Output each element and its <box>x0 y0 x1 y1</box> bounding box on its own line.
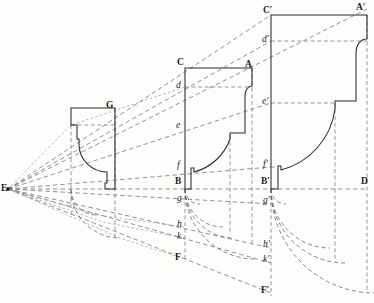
label-C: C <box>177 58 184 68</box>
ray-to-F-prime <box>8 189 271 293</box>
arc-large-k-prime <box>271 189 345 263</box>
label-g-prime: g′ <box>263 196 270 206</box>
label-B-prime: B′ <box>261 177 270 187</box>
label-C-prime: C′ <box>263 6 273 16</box>
connector-medium-to-small-k <box>8 189 185 238</box>
label-k: k <box>177 232 181 242</box>
arc-large-F-prime <box>271 189 374 293</box>
label-f: f <box>177 161 180 171</box>
projection-ray-group <box>8 9 367 293</box>
label-d-prime: d′ <box>262 35 269 45</box>
small-profile-outline <box>71 108 115 189</box>
small-moulding-profile <box>71 108 115 189</box>
arc-medium-g <box>185 189 200 204</box>
label-e: e <box>176 121 180 131</box>
label-A-prime: A′ <box>356 3 366 13</box>
ray-to-g-prime <box>8 189 271 204</box>
figure-drawing-canvas <box>0 0 374 303</box>
label-d: d <box>176 81 181 91</box>
label-e-prime: e′ <box>262 97 268 107</box>
label-D: D <box>361 177 368 187</box>
label-f-prime: f′ <box>263 160 268 170</box>
ray-to-h-prime <box>8 189 271 248</box>
ray-to-d-prime <box>8 41 271 189</box>
connector-medium-to-small-h <box>8 189 185 227</box>
arc-large-g-prime <box>271 189 286 204</box>
label-k-prime: k′ <box>263 255 269 265</box>
ray-to-e-prime <box>8 103 271 189</box>
rectification-arc-group <box>71 189 374 293</box>
ray-to-A-prime <box>8 9 367 189</box>
ray-to-k-prime <box>8 189 271 263</box>
label-h-prime: h′ <box>263 240 270 250</box>
ray-to-f-prime <box>8 167 271 189</box>
ray-to-C-prime <box>8 15 271 189</box>
arc-medium-h <box>185 189 223 227</box>
fan-connector-group <box>8 87 185 259</box>
technical-figure: E G C A d e f B g h k F C′ A′ d′ e′ f′ B… <box>0 0 374 303</box>
label-F-prime: F′ <box>261 286 269 296</box>
label-A: A <box>245 60 252 70</box>
medium-profile-outline <box>185 68 252 189</box>
arc-large-h-prime <box>271 189 330 248</box>
label-g: g <box>177 194 182 204</box>
medium-moulding-profile <box>185 68 252 189</box>
label-h: h <box>177 220 182 230</box>
label-G: G <box>106 101 113 111</box>
label-E: E <box>1 184 7 194</box>
label-F: F <box>175 253 181 263</box>
label-B: B <box>175 177 181 187</box>
